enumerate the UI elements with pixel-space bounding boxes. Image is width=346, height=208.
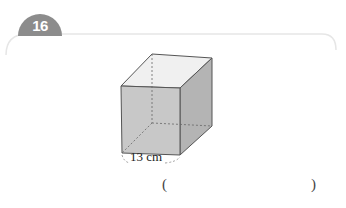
cube-figure <box>0 0 346 208</box>
answer-open-paren: ( <box>162 176 167 193</box>
edge-length-label: 13 cm <box>130 149 162 165</box>
answer-close-paren: ) <box>311 176 316 193</box>
